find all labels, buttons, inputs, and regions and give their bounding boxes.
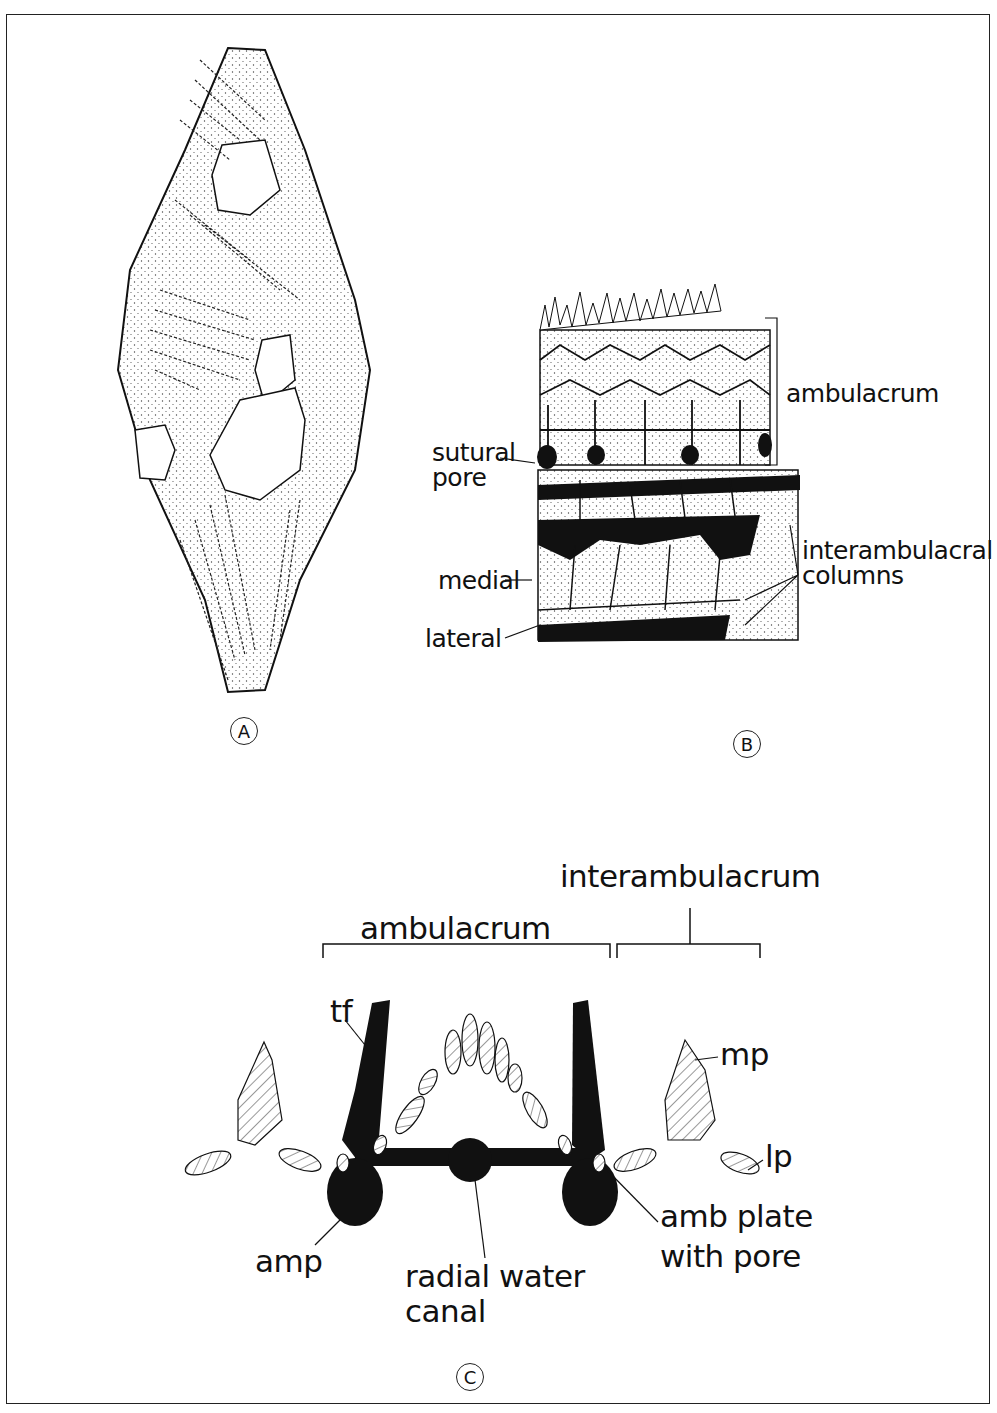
label-columns: columns [802,563,904,589]
label-with-pore: with pore [660,1240,801,1272]
label-amp: amp [255,1245,322,1277]
label-interambulacrum: interambulacrum [560,860,821,892]
label-ambulacrum-c: ambulacrum [360,912,551,944]
panel-b-plates [537,284,800,642]
label-radial-water: radial water [405,1260,585,1292]
panel-c-marker: C [456,1363,484,1391]
label-amb-plate: amb plate [660,1200,813,1232]
panel-c-letter: C [464,1367,477,1388]
label-lp: lp [765,1140,792,1172]
panel-a-letter: A [238,721,250,742]
label-canal: canal [405,1295,486,1327]
label-pore: pore [432,465,486,491]
panel-a-specimen [118,48,370,692]
panel-c-schematic [182,1000,762,1226]
panel-b-letter: B [741,734,753,755]
label-medial: medial [438,568,520,594]
panel-a-marker: A [230,717,258,745]
figure-artwork [0,0,997,1413]
label-mp: mp [720,1038,769,1070]
label-tf: tf [330,995,352,1027]
label-lateral: lateral [425,626,502,652]
label-ambulacrum-b: ambulacrum [786,381,939,407]
panel-b-marker: B [733,730,761,758]
